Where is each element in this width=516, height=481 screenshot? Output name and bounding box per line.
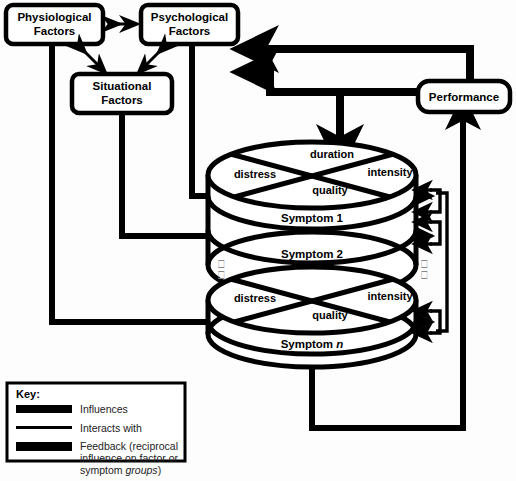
key-swatch-influences xyxy=(16,405,72,413)
key-legend: Key: Influences Interacts with Feedback … xyxy=(7,383,185,476)
edge-psychological-situational-interacts xyxy=(143,48,163,68)
edge-performance-feedback-to-symptoms xyxy=(340,92,418,148)
box-performance[interactable]: Performance xyxy=(418,81,510,112)
ellipsis-glyph-left-lower: ⎕ xyxy=(218,269,225,281)
key-label-interacts: Interacts with xyxy=(80,422,142,434)
box-psychological-label-line1: Psychological xyxy=(151,11,228,23)
sector-label-distress-upper: distress xyxy=(234,168,276,180)
layer-label-symptom-n-index: n xyxy=(336,338,343,350)
box-situational-label-line2: Factors xyxy=(101,94,143,106)
key-title: Key: xyxy=(16,388,40,400)
sector-label-quality-lower: quality xyxy=(312,309,348,321)
sector-label-intensity-upper: intensity xyxy=(367,166,413,178)
bracket-feedback-symptom-2 xyxy=(422,222,440,244)
key-swatch-feedback xyxy=(16,442,72,451)
sector-label-duration: duration xyxy=(310,148,354,160)
box-physiological-label-line1: Physiological xyxy=(17,11,91,23)
sector-label-distress-lower: distress xyxy=(234,292,276,304)
edge-physiological-situational-interacts xyxy=(81,48,101,68)
key-label-feedback-line3: symptom groups) xyxy=(80,464,161,476)
key-label-influences: Influences xyxy=(80,403,128,415)
box-physiological-label-line2: Factors xyxy=(34,25,76,37)
box-psychological-label-line2: Factors xyxy=(169,25,211,37)
box-physiological-factors[interactable]: Physiological Factors xyxy=(6,5,103,44)
sector-label-intensity-lower: intensity xyxy=(367,290,413,302)
box-performance-label: Performance xyxy=(429,91,499,103)
sector-label-quality-upper: quality xyxy=(312,184,348,196)
key-swatch-interacts xyxy=(16,426,72,429)
layer-label-symptom-2: Symptom 2 xyxy=(281,248,343,260)
key-label-feedback-line1: Feedback (reciprocal xyxy=(80,440,178,452)
box-situational-label-line1: Situational xyxy=(93,80,152,92)
box-psychological-factors[interactable]: Psychological Factors xyxy=(141,5,238,44)
box-situational-factors[interactable]: Situational Factors xyxy=(72,74,172,113)
layer-label-symptom-n: Symptom n xyxy=(281,338,344,350)
ellipsis-glyph-right-lower: ⎕ xyxy=(421,269,428,281)
key-feedback-word-symptom: symptom xyxy=(80,464,126,476)
diagram-svg: Physiological Factors Psychological Fact… xyxy=(0,0,516,481)
diagram-canvas: Physiological Factors Psychological Fact… xyxy=(0,0,516,481)
key-feedback-paren: ) xyxy=(158,464,162,476)
cylinder-lower-stack[interactable]: distress intensity quality Symptom n xyxy=(208,267,416,367)
key-feedback-word-groups: groups xyxy=(126,464,159,476)
layer-label-symptom-1: Symptom 1 xyxy=(281,212,344,224)
key-label-feedback-line2: influence on factor or xyxy=(80,452,179,464)
